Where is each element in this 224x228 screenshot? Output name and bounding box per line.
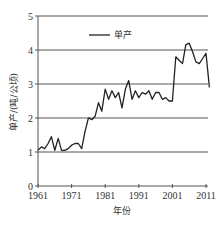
x-tick-label: 1971 [62, 190, 82, 201]
y-tick-label: 5 [28, 11, 33, 22]
x-tick-label: 1961 [28, 190, 48, 201]
x-tick-label: 1991 [129, 190, 149, 201]
x-tick-label: 1981 [95, 190, 115, 201]
x-tick-label: 2001 [162, 190, 182, 201]
series-line-yield [38, 43, 209, 150]
y-axis-title: 单产/(吨/公顷) [8, 73, 19, 131]
x-tick-labels: 196119711981199120012011 [28, 190, 216, 201]
y-tick-labels: 012345 [28, 11, 33, 192]
y-tick-label: 2 [28, 113, 33, 124]
axes [35, 16, 208, 188]
y-tick-label: 3 [28, 79, 33, 90]
y-tick-label: 1 [28, 147, 33, 158]
x-tick-label: 2011 [196, 190, 216, 201]
yield-line-chart: 012345 196119711981199120012011 单产 年份 单产… [0, 0, 224, 228]
x-axis-title: 年份 [113, 205, 131, 216]
legend-label: 单产 [114, 29, 132, 40]
legend: 单产 [89, 29, 132, 40]
y-tick-label: 4 [28, 45, 33, 56]
